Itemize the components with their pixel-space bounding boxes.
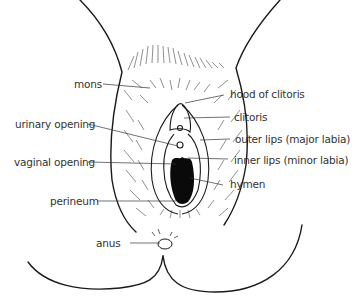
clitoris: [178, 126, 183, 131]
label-mons: mons: [74, 78, 102, 90]
label-perineum: perineum: [50, 195, 99, 207]
label-inner-lips: inner lips (minor labia): [234, 154, 348, 166]
right-buttock-outline: [163, 225, 302, 292]
urinary-opening-mark: [177, 142, 183, 148]
left-buttock-outline: [28, 256, 163, 289]
label-outer-lips: outer lips (major labia): [235, 133, 350, 145]
label-hood-of-clitoris: hood of clitoris: [230, 88, 305, 100]
label-clitoris: clitoris: [234, 111, 267, 123]
label-vaginal-opening: vaginal opening: [14, 156, 95, 168]
label-anus: anus: [96, 237, 120, 249]
anatomy-illustration: [0, 0, 352, 306]
label-urinary-opening: urinary opening: [15, 118, 95, 130]
label-hymen: hymen: [230, 178, 265, 190]
anus-mark: [158, 239, 172, 249]
